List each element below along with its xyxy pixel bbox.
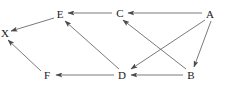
graph-node-e: E: [57, 9, 64, 20]
graph-edge-e-to-x: [11, 18, 54, 31]
graph-node-d: D: [118, 70, 126, 81]
graph-edge-b-to-c: [123, 20, 186, 69]
graph-edge-d-to-e: [65, 21, 119, 69]
graph-node-c: C: [116, 8, 123, 19]
graph-edge-f-to-x: [8, 40, 41, 71]
graph-edge-a-to-b: [194, 21, 211, 67]
graph-figure: EXCAFDB: [0, 0, 227, 90]
graph-edge-a-to-d: [131, 20, 205, 69]
graph-node-x: X: [1, 28, 9, 39]
graph-node-f: F: [44, 70, 50, 81]
graph-node-a: A: [206, 9, 214, 20]
graph-node-b: B: [187, 70, 194, 81]
graph-edges: [8, 13, 211, 75]
